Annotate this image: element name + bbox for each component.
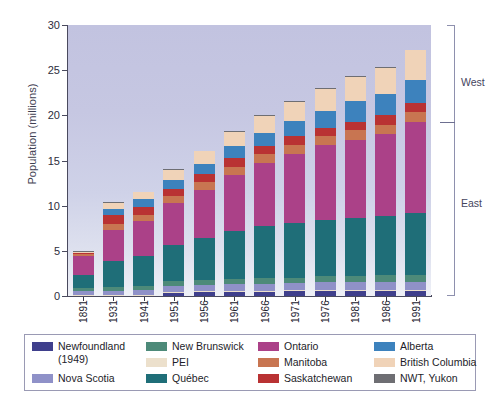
bar-segment [315,291,336,296]
x-tick-label: 1986 [381,300,392,323]
bar-segment [375,134,396,216]
legend-swatch [32,374,53,383]
bar-segment [194,190,215,239]
legend-swatch [32,342,53,351]
legend-item: Québec [146,372,258,385]
bar-1971 [284,101,305,296]
bar-segment [163,189,184,196]
y-tick-label: 5 [34,245,60,257]
legend-label: PEI [172,356,189,369]
bar-segment [103,295,124,296]
bar-segment [194,182,215,190]
bar-segment [254,146,275,155]
bar-1941 [133,192,154,296]
legend-label: Ontario [284,340,318,353]
legend-swatch [374,342,395,351]
bar-segment [405,282,426,290]
bar-segment [73,295,94,296]
bar-segment [163,293,184,296]
bar-segment [224,284,245,291]
legend-item: Alberta [374,340,484,353]
bar-segment [163,245,184,282]
legend-label: Newfoundland (1949) [58,340,146,366]
legend-swatch [374,374,395,383]
x-tick-label: 1956 [199,300,210,323]
bar-segment [284,102,305,122]
bar-segment [194,164,215,174]
bar-segment [315,282,336,289]
bar-segment [224,167,245,175]
bar-1966 [254,115,275,296]
bar-segment [254,284,275,291]
bar-segment [194,292,215,296]
bar-segment [163,196,184,203]
bar-1976 [315,88,336,296]
region-label-east: East [461,197,482,209]
bar-segment [133,256,154,286]
bar-segment [375,282,396,290]
legend-label: Manitoba [284,356,327,369]
y-tick-label: 0 [34,290,60,302]
bar-segment [254,292,275,296]
bar-segment [405,291,426,296]
legend-item: British Columbia [374,356,484,369]
bar-segment [405,103,426,112]
bar-1951 [163,169,184,296]
bar-segment [345,140,366,218]
y-axis-title: Population (millions) [26,14,38,254]
bar-1961 [224,131,245,296]
y-tick-label: 15 [34,155,60,167]
legend-label: Nova Scotia [58,372,115,385]
region-label-west: West [461,76,485,88]
x-tick-label: 1891 [78,300,89,323]
bar-segment [284,283,305,290]
x-tick-label: 1941 [139,300,150,323]
bar-segment [254,226,275,278]
legend-label: Alberta [400,340,433,353]
bar-segment [224,132,245,147]
bar-segment [315,111,336,128]
bar-segment [254,133,275,146]
legend-item: Manitoba [258,356,374,369]
bar-segment [284,136,305,144]
bar-segment [375,115,396,124]
bar-segment [224,146,245,158]
bar-1931 [103,202,124,296]
legend-grid: Newfoundland (1949)New BrunswickOntarioA… [32,340,472,388]
population-stacked-bar-chart: Population (millions) 051015202530 18911… [0,0,498,402]
bar-segment [315,220,336,276]
bar-segment [254,116,275,133]
bar-segment [405,50,426,80]
legend-swatch [258,342,279,351]
bar-segment [375,216,396,275]
bar-segment [375,291,396,296]
bar-segment [254,163,275,226]
bar-segment [73,256,94,275]
legend-item: New Brunswick [146,340,258,353]
bar-segment [163,180,184,188]
legend: Newfoundland (1949)New BrunswickOntarioA… [24,334,476,391]
legend-item: Newfoundland (1949) [32,340,146,366]
bar-segment [345,122,366,131]
legend-label: Québec [172,372,209,385]
bar-1991 [405,50,426,296]
bar-segment [133,295,154,296]
bar-segment [163,170,184,181]
bar-segment [284,223,305,277]
legend-swatch [258,374,279,383]
bar-segment [224,158,245,166]
x-tick-label: 1966 [260,300,271,323]
bar-segment [224,292,245,296]
bar-segment [103,209,124,216]
bar-segment [345,130,366,139]
region-bracket-divider [440,122,455,123]
bar-segment [224,231,245,279]
bar-segment [194,151,215,164]
legend-swatch [146,358,167,367]
bar-segment [375,125,396,135]
bar-segment [345,77,366,102]
x-tick-label: 1971 [290,300,301,323]
bar-segment [405,122,426,213]
legend-item: PEI [146,356,258,369]
bar-segment [375,94,396,115]
